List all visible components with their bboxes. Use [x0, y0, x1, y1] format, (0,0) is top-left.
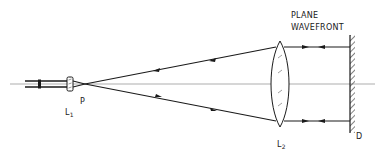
lower-ray: [85, 84, 276, 121]
mirror-d-label: D: [356, 133, 362, 141]
lens-l1-label-sub: 1: [70, 111, 74, 118]
optical-diagram: PLANE WAVEFRONT P L1 L2 D: [0, 0, 385, 158]
lens-l2-label-sub: 2: [282, 143, 286, 150]
mirror-d-icon: [350, 35, 355, 133]
upper-ray: [85, 47, 276, 84]
lens-l2-label: L2: [277, 141, 286, 149]
lens-l2-icon: [271, 41, 289, 127]
focus-point-label: P: [80, 98, 85, 106]
lens-l1-icon: [67, 77, 73, 91]
plane-wavefront-label-line2: WAVEFRONT: [291, 24, 344, 32]
plane-wavefront-label-line1: PLANE: [291, 12, 318, 20]
lens-l1-label: L1: [65, 109, 74, 117]
